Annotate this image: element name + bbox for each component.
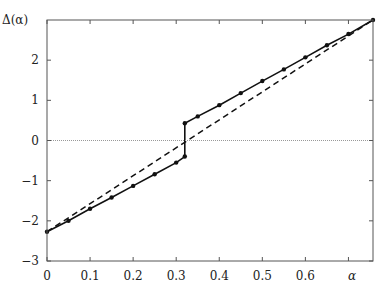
- reference-line: [47, 20, 373, 232]
- y-axis-ticks: −3−2−1012: [21, 53, 373, 268]
- x-tick-label: 0.3: [167, 269, 186, 283]
- data-point: [109, 195, 113, 199]
- data-point: [325, 43, 329, 47]
- data-point: [152, 172, 156, 176]
- x-tick-label: 0.6: [296, 269, 315, 283]
- y-axis-label: Δ(α): [2, 13, 28, 27]
- data-point: [239, 91, 243, 95]
- plot-area: [45, 18, 375, 234]
- x-axis-label: α: [348, 269, 356, 283]
- data-point: [183, 154, 187, 158]
- x-tick-label: 0.5: [253, 269, 272, 283]
- data-point: [183, 121, 187, 125]
- data-point: [260, 79, 264, 83]
- data-point: [88, 207, 92, 211]
- chart: 00.10.20.30.40.50.6 −3−2−1012 Δ(α) α: [0, 0, 389, 292]
- x-tick-label: 0: [43, 269, 51, 283]
- data-point: [131, 184, 135, 188]
- data-point: [174, 160, 178, 164]
- x-tick-label: 0.1: [81, 269, 100, 283]
- data-point: [282, 67, 286, 71]
- data-point: [196, 114, 200, 118]
- y-tick-label: −1: [21, 174, 39, 188]
- y-tick-label: −2: [21, 214, 39, 228]
- data-point: [217, 103, 221, 107]
- x-tick-label: 0.2: [124, 269, 143, 283]
- y-tick-label: 1: [31, 93, 39, 107]
- data-point: [303, 55, 307, 59]
- x-tick-label: 0.4: [210, 269, 229, 283]
- y-tick-label: 2: [31, 53, 39, 67]
- y-tick-label: −3: [21, 254, 39, 268]
- y-tick-label: 0: [31, 134, 39, 148]
